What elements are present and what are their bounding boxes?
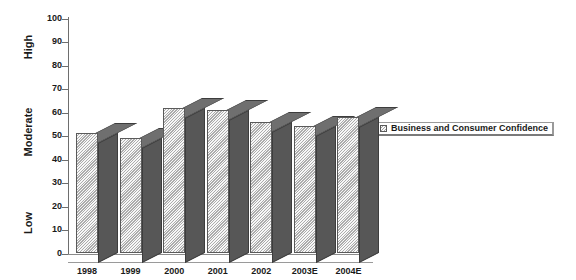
y-tick-label-50: 50 — [38, 131, 62, 140]
x-label-2003E: 2003E — [286, 266, 324, 276]
y-tick-label-wrap-100: 100 — [32, 14, 62, 23]
band-label-low: Low — [22, 193, 34, 253]
bar-side-face — [98, 133, 118, 263]
y-tick-label-90: 90 — [38, 37, 62, 46]
y-tick-label-40: 40 — [38, 155, 62, 164]
bar-side-face — [229, 110, 249, 263]
bar-side-face — [185, 107, 205, 263]
y-tick-0 — [62, 254, 68, 255]
legend-label-confidence: Business and Consumer Confidence — [391, 124, 548, 133]
y-tick-label-30: 30 — [38, 178, 62, 187]
bar-1999 — [120, 138, 142, 253]
bar-2001 — [207, 110, 229, 253]
bar-side-face — [359, 117, 379, 263]
plot-area — [68, 19, 373, 253]
y-tick-label-wrap-20: 20 — [32, 202, 62, 211]
bar-front-face — [294, 126, 316, 253]
bar-side-face — [316, 126, 336, 263]
y-tick-label-80: 80 — [38, 61, 62, 70]
y-tick-label-wrap-70: 70 — [32, 84, 62, 93]
y-tick-label-wrap-50: 50 — [32, 131, 62, 140]
x-label-2002: 2002 — [242, 266, 280, 276]
bar-front-face — [163, 108, 185, 253]
x-label-2001: 2001 — [199, 266, 237, 276]
bar-side-face — [272, 121, 292, 263]
band-label-high: High — [22, 17, 34, 77]
bar-front-face — [250, 122, 272, 253]
bar-front-face — [207, 110, 229, 253]
x-label-1999: 1999 — [112, 266, 150, 276]
y-tick-label-wrap-60: 60 — [32, 108, 62, 117]
x-label-1998: 1998 — [68, 266, 106, 276]
bar-2000 — [163, 108, 185, 253]
y-tick-label-20: 20 — [38, 202, 62, 211]
legend-swatch-confidence — [380, 125, 387, 132]
y-tick-label-70: 70 — [38, 84, 62, 93]
y-tick-label-wrap-30: 30 — [32, 178, 62, 187]
y-tick-label-0: 0 — [38, 249, 62, 258]
x-label-2004E: 2004E — [329, 266, 367, 276]
bar-chart: 0102030405060708090100 HighModerateLow 1… — [0, 0, 576, 280]
y-tick-label-wrap-10: 10 — [32, 225, 62, 234]
y-tick-label-wrap-90: 90 — [32, 37, 62, 46]
bar-side-face — [142, 138, 162, 263]
y-tick-label-60: 60 — [38, 108, 62, 117]
y-tick-label-wrap-80: 80 — [32, 61, 62, 70]
y-tick-label-wrap-40: 40 — [32, 155, 62, 164]
bar-front-face — [120, 138, 142, 253]
y-tick-label-10: 10 — [38, 225, 62, 234]
bar-front-face — [337, 117, 359, 253]
bar-front-face — [76, 133, 98, 253]
bar-1998 — [76, 133, 98, 253]
band-label-moderate: Moderate — [22, 102, 34, 162]
y-tick-label-100: 100 — [38, 14, 62, 23]
chart-legend: Business and Consumer Confidence — [376, 122, 554, 136]
y-tick-label-wrap-0: 0 — [32, 249, 62, 258]
x-axis-baseline-secondary — [68, 262, 373, 263]
bar-2003E — [294, 126, 316, 253]
bar-2002 — [250, 122, 272, 253]
x-label-2000: 2000 — [155, 266, 193, 276]
bar-2004E — [337, 117, 359, 253]
